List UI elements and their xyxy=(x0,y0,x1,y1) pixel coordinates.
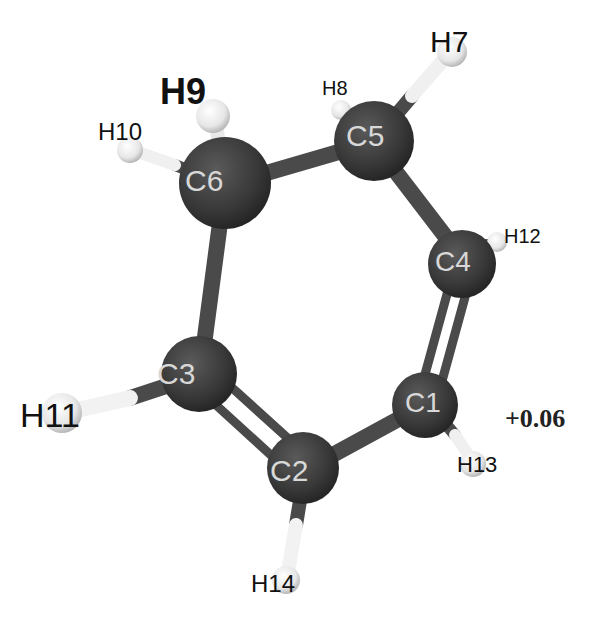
label-h9: H9 xyxy=(160,71,206,112)
label-h8: H8 xyxy=(322,77,348,99)
label-c2: C2 xyxy=(270,454,308,487)
label-h11: H11 xyxy=(20,396,80,434)
label-c4: C4 xyxy=(435,246,471,277)
label-h12: H12 xyxy=(504,225,541,247)
label-h13: H13 xyxy=(457,452,497,477)
charge-label: +0.06 xyxy=(505,404,565,433)
label-c6: C6 xyxy=(185,164,223,197)
label-h7: H7 xyxy=(430,25,468,58)
label-h14: H14 xyxy=(251,570,295,597)
molecule-diagram: C6 C5 C4 C1 C2 C3 H7 H8 H9 H10 H11 H12 H… xyxy=(0,0,612,617)
label-c5: C5 xyxy=(346,119,384,152)
label-c3: C3 xyxy=(157,357,195,390)
label-h10: H10 xyxy=(98,118,142,145)
label-c1: C1 xyxy=(405,387,441,418)
